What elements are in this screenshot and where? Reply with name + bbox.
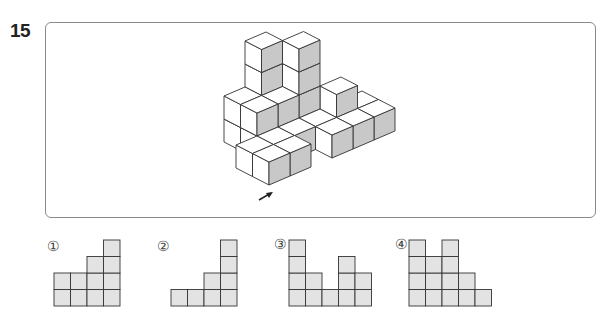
grid-cell <box>442 290 459 307</box>
grid-cell <box>409 257 426 274</box>
grid-cell <box>87 257 104 274</box>
grid-cell <box>204 290 221 307</box>
grid-cell <box>221 257 238 274</box>
grid-cell <box>442 240 459 257</box>
grid-cell <box>306 273 323 290</box>
grid-cell <box>54 273 71 290</box>
grid-cell <box>409 240 426 257</box>
grid-cell <box>71 273 88 290</box>
grid-cell <box>442 257 459 274</box>
grid-cell <box>171 290 188 307</box>
grid-cell <box>104 273 121 290</box>
grid-cell <box>289 290 306 307</box>
grid-cell <box>289 257 306 274</box>
option-label-4[interactable]: ④ <box>395 236 408 252</box>
grid-cell <box>355 273 372 290</box>
grid-cell <box>289 240 306 257</box>
grid-cell <box>87 273 104 290</box>
grid-cell <box>221 290 238 307</box>
grid-cell <box>339 290 356 307</box>
grid-cell <box>54 290 71 307</box>
grid-cell <box>442 273 459 290</box>
option-2-front-view[interactable] <box>170 239 238 307</box>
option-1-front-view[interactable] <box>53 239 121 307</box>
grid-cell <box>409 290 426 307</box>
grid-cell <box>306 290 323 307</box>
answer-options: ①②③④ <box>0 0 613 318</box>
option-label-3[interactable]: ③ <box>274 236 287 252</box>
grid-cell <box>104 240 121 257</box>
grid-cell <box>355 290 372 307</box>
grid-cell <box>221 273 238 290</box>
option-label-2[interactable]: ② <box>157 238 170 254</box>
grid-cell <box>87 290 104 307</box>
option-3-front-view[interactable] <box>288 239 373 307</box>
grid-cell <box>426 290 443 307</box>
grid-cell <box>459 290 476 307</box>
grid-cell <box>475 290 492 307</box>
grid-cell <box>289 273 306 290</box>
grid-cell <box>104 290 121 307</box>
grid-cell <box>322 290 339 307</box>
grid-cell <box>104 257 121 274</box>
grid-cell <box>221 240 238 257</box>
grid-cell <box>71 290 88 307</box>
grid-cell <box>426 273 443 290</box>
grid-cell <box>188 290 205 307</box>
grid-cell <box>204 273 221 290</box>
grid-cell <box>339 257 356 274</box>
grid-cell <box>426 257 443 274</box>
grid-cell <box>459 273 476 290</box>
grid-cell <box>409 273 426 290</box>
option-4-front-view[interactable] <box>408 239 493 307</box>
grid-cell <box>339 273 356 290</box>
